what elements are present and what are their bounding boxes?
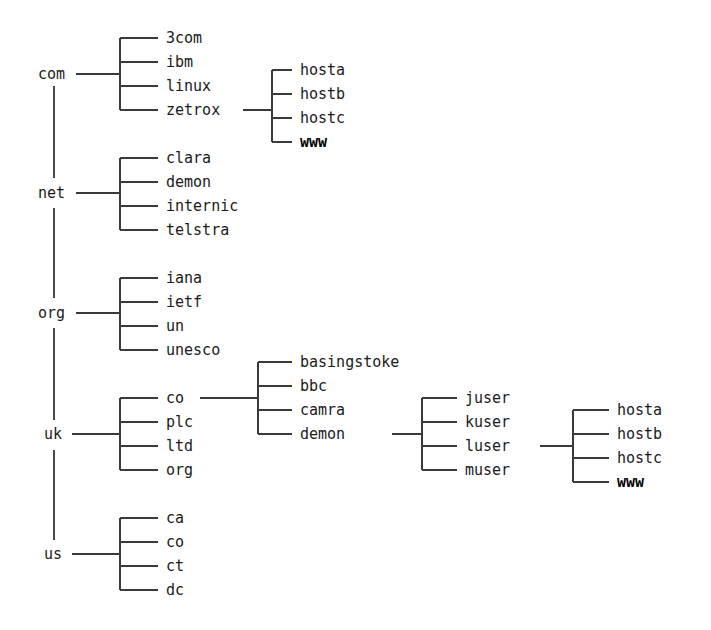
- branch-line-luser-children-2: [573, 457, 609, 459]
- tld-label-org: org: [38, 306, 65, 321]
- branch-line-org-children-1: [120, 301, 158, 303]
- branch-line-co-children-0: [258, 361, 292, 363]
- branch-line-luser-children-0: [573, 409, 609, 411]
- node-label-hostc: hostc: [617, 451, 662, 466]
- connector-stub-com-children: [76, 73, 120, 75]
- branch-line-com-children-2: [120, 85, 158, 87]
- branch-line-net-children-1: [120, 181, 158, 183]
- branch-line-demon-children-2: [422, 445, 457, 447]
- branch-line-zetrox-children-3: [272, 141, 292, 143]
- node-label-clara: clara: [166, 151, 211, 166]
- branch-line-org-children-3: [120, 349, 158, 351]
- branch-line-co-children-3: [258, 433, 292, 435]
- node-label-camra: camra: [300, 403, 345, 418]
- connector-stub-co-children: [200, 397, 258, 399]
- node-label-demon: demon: [166, 175, 211, 190]
- connector-stub-zetrox-children: [243, 109, 272, 111]
- connector-stub-demon-children: [392, 433, 422, 435]
- branch-line-com-children-1: [120, 61, 158, 63]
- node-label-co: co: [166, 391, 184, 406]
- branch-line-zetrox-children-2: [272, 117, 292, 119]
- connector-stub-org-children: [76, 312, 120, 314]
- node-label-kuser: kuser: [465, 415, 510, 430]
- root-spine-segment: [53, 208, 55, 298]
- branch-line-luser-children-1: [573, 433, 609, 435]
- bracket-bar-uk-children: [119, 398, 121, 470]
- branch-line-net-children-3: [120, 229, 158, 231]
- branch-line-demon-children-0: [422, 397, 457, 399]
- branch-line-com-children-3: [120, 109, 158, 111]
- node-label-luser: luser: [465, 439, 510, 454]
- node-label-ct: ct: [166, 559, 184, 574]
- branch-line-us-children-0: [120, 517, 158, 519]
- root-spine-segment: [53, 450, 55, 540]
- branch-line-us-children-2: [120, 565, 158, 567]
- node-label-org: org: [166, 463, 193, 478]
- branch-line-us-children-1: [120, 541, 158, 543]
- tld-label-us: us: [44, 547, 62, 562]
- node-label-internic: internic: [166, 199, 238, 214]
- branch-line-co-children-2: [258, 409, 292, 411]
- tld-label-net: net: [38, 186, 65, 201]
- connector-stub-net-children: [76, 192, 120, 194]
- bracket-bar-us-children: [119, 518, 121, 590]
- branch-line-org-children-2: [120, 325, 158, 327]
- bracket-bar-demon-children: [421, 398, 423, 470]
- node-label-unesco: unesco: [166, 343, 220, 358]
- node-label-www: www: [300, 135, 327, 150]
- root-spine-segment: [53, 86, 55, 178]
- tld-label-com: com: [38, 67, 65, 82]
- branch-line-us-children-3: [120, 589, 158, 591]
- branch-line-net-children-0: [120, 157, 158, 159]
- bracket-bar-net-children: [119, 158, 121, 230]
- connector-stub-luser-children: [540, 445, 573, 447]
- node-label-demon: demon: [300, 427, 345, 442]
- node-label-hosta: hosta: [300, 63, 345, 78]
- node-label-hostb: hostb: [617, 427, 662, 442]
- branch-line-co-children-1: [258, 385, 292, 387]
- node-label-co: co: [166, 535, 184, 550]
- node-label-ltd: ltd: [166, 439, 193, 454]
- node-label-juser: juser: [465, 391, 510, 406]
- node-label-hostc: hostc: [300, 111, 345, 126]
- root-spine-segment: [53, 328, 55, 420]
- connector-stub-uk-children: [72, 433, 120, 435]
- bracket-bar-co-children: [257, 362, 259, 434]
- tld-label-uk: uk: [44, 427, 62, 442]
- node-label-dc: dc: [166, 583, 184, 598]
- branch-line-com-children-0: [120, 37, 158, 39]
- node-label-iana: iana: [166, 271, 202, 286]
- branch-line-uk-children-2: [120, 445, 158, 447]
- bracket-bar-zetrox-children: [271, 70, 273, 142]
- branch-line-uk-children-3: [120, 469, 158, 471]
- node-label-hostb: hostb: [300, 87, 345, 102]
- connector-stub-us-children: [72, 553, 120, 555]
- node-label-linux: linux: [166, 79, 211, 94]
- branch-line-org-children-0: [120, 277, 158, 279]
- node-label-basingstoke: basingstoke: [300, 355, 399, 370]
- node-label-www: www: [617, 475, 644, 490]
- node-label-telstra: telstra: [166, 223, 229, 238]
- node-label-hosta: hosta: [617, 403, 662, 418]
- node-label-muser: muser: [465, 463, 510, 478]
- branch-line-uk-children-1: [120, 421, 158, 423]
- branch-line-demon-children-1: [422, 421, 457, 423]
- node-label-plc: plc: [166, 415, 193, 430]
- branch-line-uk-children-0: [120, 397, 158, 399]
- branch-line-luser-children-3: [573, 481, 609, 483]
- dns-hierarchy-diagram: comnetorgukus3comibmlinuxzetroxhostahost…: [0, 0, 711, 630]
- branch-line-demon-children-3: [422, 469, 457, 471]
- branch-line-zetrox-children-1: [272, 93, 292, 95]
- bracket-bar-org-children: [119, 278, 121, 350]
- bracket-bar-com-children: [119, 38, 121, 110]
- node-label-ibm: ibm: [166, 55, 193, 70]
- node-label-bbc: bbc: [300, 379, 327, 394]
- node-label-un: un: [166, 319, 184, 334]
- bracket-bar-luser-children: [572, 410, 574, 482]
- node-label-ietf: ietf: [166, 295, 202, 310]
- node-label-zetrox: zetrox: [166, 103, 220, 118]
- node-label-3com: 3com: [166, 31, 202, 46]
- branch-line-net-children-2: [120, 205, 158, 207]
- branch-line-zetrox-children-0: [272, 69, 292, 71]
- node-label-ca: ca: [166, 511, 184, 526]
